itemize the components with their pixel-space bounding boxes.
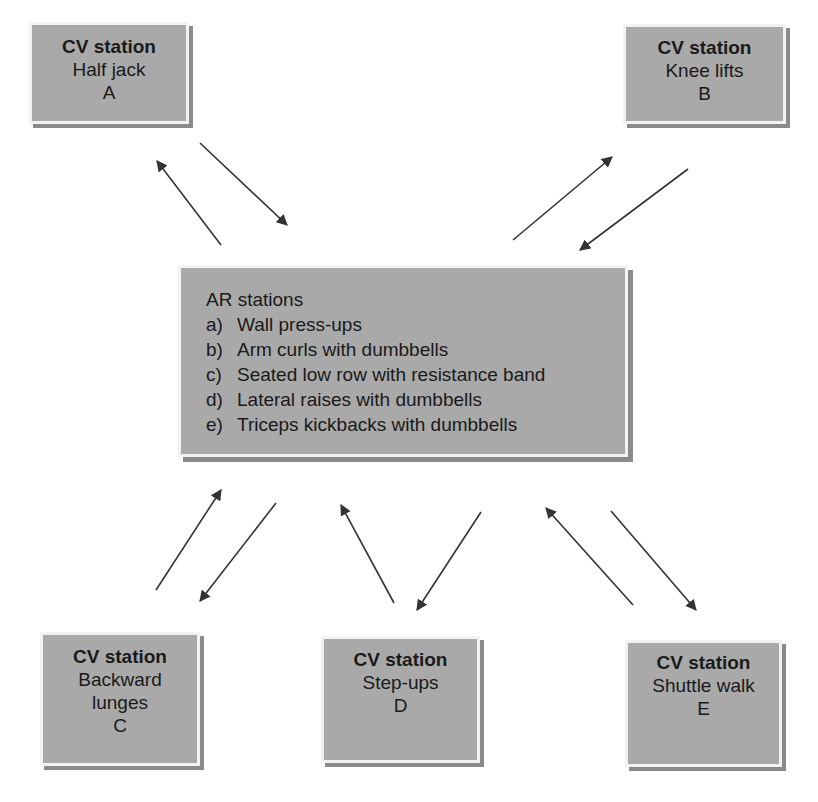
cv-station-d-name: Step-ups (324, 671, 477, 694)
ar-stations-list: a) Wall press-ups b) Arm curls with dumb… (206, 312, 625, 437)
ar-station-text: Wall press-ups (237, 312, 362, 337)
ar-station-item: d) Lateral raises with dumbbells (206, 387, 625, 412)
cv-station-e-name: Shuttle walk (628, 674, 779, 697)
cv-station-a-title: CV station (32, 35, 186, 58)
ar-station-item: a) Wall press-ups (206, 312, 625, 337)
ar-station-label: a) (206, 312, 237, 337)
cv-station-a-code: A (32, 81, 186, 104)
arrow-ar-to-b (513, 157, 612, 240)
cv-station-c-name-line1: Backward (43, 668, 197, 691)
cv-station-d: CV station Step-ups D (321, 636, 480, 763)
ar-stations-title: AR stations (206, 287, 625, 312)
arrow-ar-to-d (417, 512, 481, 610)
cv-station-d-title: CV station (324, 648, 477, 671)
cv-station-e-code: E (628, 697, 779, 720)
cv-station-a: CV station Half jack A (29, 22, 189, 124)
cv-station-c-name-line2: lunges (43, 691, 197, 714)
cv-station-b-title: CV station (626, 36, 783, 59)
cv-station-e-title: CV station (628, 651, 779, 674)
ar-station-item: e) Triceps kickbacks with dumbbells (206, 412, 625, 437)
cv-station-b-code: B (626, 82, 783, 105)
arrow-a-to-ar (200, 143, 287, 225)
cv-station-c-code: C (43, 714, 197, 737)
arrow-b-to-ar (580, 169, 688, 250)
cv-station-c: CV station Backward lunges C (40, 632, 200, 766)
arrow-ar-to-a (157, 161, 221, 245)
ar-station-text: Arm curls with dumbbells (237, 337, 448, 362)
cv-station-b: CV station Knee lifts B (623, 24, 786, 124)
ar-station-text: Triceps kickbacks with dumbbells (237, 412, 517, 437)
ar-station-text: Lateral raises with dumbbells (237, 387, 482, 412)
cv-station-d-code: D (324, 694, 477, 717)
ar-station-label: d) (206, 387, 237, 412)
arrow-ar-to-c (200, 503, 276, 601)
ar-station-label: e) (206, 412, 237, 437)
ar-station-label: c) (206, 362, 237, 387)
cv-station-c-title: CV station (43, 645, 197, 668)
cv-station-a-name: Half jack (32, 58, 186, 81)
cv-station-b-name: Knee lifts (626, 59, 783, 82)
cv-station-e: CV station Shuttle walk E (625, 640, 782, 767)
ar-station-text: Seated low row with resistance band (237, 362, 545, 387)
ar-station-item: b) Arm curls with dumbbells (206, 337, 625, 362)
ar-station-label: b) (206, 337, 237, 362)
ar-stations-box: AR stations a) Wall press-ups b) Arm cur… (178, 265, 628, 457)
arrow-c-to-ar (156, 490, 221, 590)
arrow-d-to-ar (341, 505, 394, 603)
ar-station-item: c) Seated low row with resistance band (206, 362, 625, 387)
